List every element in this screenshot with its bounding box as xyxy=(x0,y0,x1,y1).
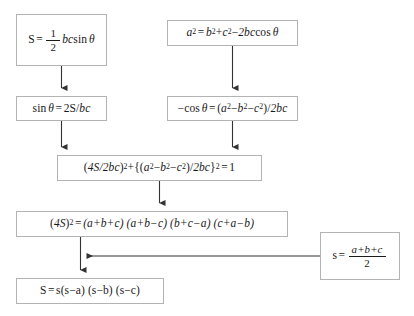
formula-neg-cos-theta: −cos θ = (a2−b2−c2)/2bc xyxy=(178,103,288,115)
cos-term-c: c xyxy=(222,27,227,39)
negcos-func: cos xyxy=(184,103,200,115)
area-denominator: 2 xyxy=(47,41,59,53)
ident-p1-close: ) xyxy=(120,162,124,174)
negcos-sign: − xyxy=(178,103,185,115)
node-expanded-16s2: (4S)2 = (a+b+c) (a+b−c) (b+c−a) (c+a−b) xyxy=(16,211,288,237)
area-equals: = xyxy=(35,34,45,46)
cos-func: cos xyxy=(255,27,271,39)
flowchart-diagram: S = 1 2 bc sin θ a2 = b2+c2−2bccos θ sin… xyxy=(0,0,414,316)
sin-rhs-den: bc xyxy=(79,103,90,115)
heron-factor-3: (s−c) xyxy=(113,285,140,297)
formula-heron: S = s(s−a) (s−b) (s−c) xyxy=(40,285,140,297)
area-theta: θ xyxy=(87,34,95,46)
semi-equals: = xyxy=(337,250,347,262)
ident-brace-close: } xyxy=(210,162,216,174)
semi-denominator: 2 xyxy=(361,257,373,269)
negcos-minus-2: − xyxy=(247,103,254,115)
heron-factor-2: (s−b) xyxy=(85,285,113,297)
sin-equals: = xyxy=(54,103,64,115)
negcos-equals: = xyxy=(208,103,218,115)
ident-p1: 4S/2bc xyxy=(88,162,120,174)
negcos-den: 2bc xyxy=(271,103,288,115)
area-numerator: 1 xyxy=(47,28,59,40)
area-sin-func: sin xyxy=(73,34,87,46)
sin-func: sin xyxy=(33,103,47,115)
exp-lhs-close: ) xyxy=(66,218,70,230)
semi-fraction: a+b+c 2 xyxy=(349,244,386,269)
ident-minus-2: − xyxy=(170,162,177,174)
exp-equals: = xyxy=(74,218,84,230)
cos-equals: = xyxy=(196,27,206,39)
node-semiperimeter: s = a+b+c 2 xyxy=(320,232,400,280)
ident-den: 2bc xyxy=(193,162,210,174)
sin-rhs-num: 2S xyxy=(64,103,76,115)
formula-semiperimeter: s = a+b+c 2 xyxy=(332,244,387,269)
ident-a: a xyxy=(144,162,150,174)
area-bc: bc xyxy=(62,34,73,46)
formula-law-cosines: a2 = b2+c2−2bccos θ xyxy=(186,27,278,39)
ident-equals: = xyxy=(220,162,230,174)
cos-theta: θ xyxy=(271,27,279,39)
exp-lhs: 4S xyxy=(54,218,66,230)
cos-term-2bc: 2bc xyxy=(238,27,255,39)
cos-term-b: b xyxy=(206,27,212,39)
formula-pythag-identity: (4S/2bc)2+{(a2−b2−c2)/2bc}2 = 1 xyxy=(84,162,235,174)
formula-expanded-16s2: (4S)2 = (a+b+c) (a+b−c) (b+c−a) (c+a−b) xyxy=(50,218,254,230)
formula-sin-theta: sin θ = 2S/bc xyxy=(33,103,91,115)
negcos-theta: θ xyxy=(200,103,208,115)
exp-factor-2: (a+b−c) xyxy=(124,218,167,230)
node-sin-theta: sin θ = 2S/bc xyxy=(16,96,107,121)
node-law-cosines: a2 = b2+c2−2bccos θ xyxy=(167,20,298,46)
ident-plus: + xyxy=(128,162,135,174)
heron-equals: = xyxy=(46,285,56,297)
exp-factor-4: (c+a−b) xyxy=(211,218,254,230)
node-area-sine: S = 1 2 bc sin θ xyxy=(16,14,107,66)
exp-factor-1: (a+b+c) xyxy=(83,218,123,230)
node-pythag-identity: (4S/2bc)2+{(a2−b2−c2)/2bc}2 = 1 xyxy=(57,155,262,181)
ident-one: 1 xyxy=(229,162,235,174)
heron-factor-1: (s−a) xyxy=(61,285,85,297)
formula-area-sine: S = 1 2 bc sin θ xyxy=(28,28,95,53)
sin-theta-arg: θ xyxy=(46,103,54,115)
exp-factor-3: (b+c−a) xyxy=(167,218,210,230)
negcos-minus-1: − xyxy=(231,103,238,115)
node-heron-formula: S = s(s−a) (s−b) (s−c) xyxy=(16,278,164,304)
ident-minus-1: − xyxy=(154,162,161,174)
cos-minus: − xyxy=(232,27,239,39)
area-fraction: 1 2 xyxy=(46,28,60,53)
node-neg-cos-theta: −cos θ = (a2−b2−c2)/2bc xyxy=(167,96,298,121)
semi-numerator: a+b+c xyxy=(349,244,386,256)
cos-plus: + xyxy=(216,27,223,39)
